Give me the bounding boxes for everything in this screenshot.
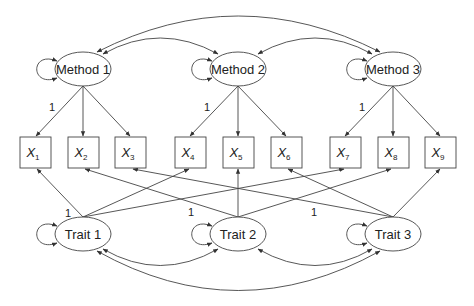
load-t1-x7 xyxy=(83,169,344,217)
var-trait3 xyxy=(347,224,367,245)
load-t3-x6 xyxy=(288,169,393,217)
load-m2-x4 xyxy=(190,86,238,136)
cov-trait2-trait3 xyxy=(258,249,372,266)
load-m2-x6 xyxy=(238,86,286,136)
load-t1-x1 xyxy=(37,169,83,217)
cov-method1-method2 xyxy=(103,38,218,54)
cov-trait1-trait3 xyxy=(97,251,380,291)
trait-2-node: Trait 2 xyxy=(210,217,266,251)
method-2-label: Method 2 xyxy=(211,62,265,77)
var-trait1 xyxy=(37,224,57,245)
fixed-loading-m2: 1 xyxy=(204,101,210,113)
var-method2 xyxy=(192,59,212,80)
fixed-loading-t1: 1 xyxy=(65,207,71,219)
load-t3-x9 xyxy=(393,169,440,217)
cov-method1-method3 xyxy=(97,16,380,52)
trait-3-node: Trait 3 xyxy=(365,217,421,251)
trait-1-label: Trait 1 xyxy=(65,227,101,242)
load-m1-x1 xyxy=(36,86,83,136)
method-1-label: Method 1 xyxy=(56,62,110,77)
fixed-loading-t3: 1 xyxy=(311,206,317,218)
trait-2-label: Trait 2 xyxy=(220,227,256,242)
fixed-loading-m1: 1 xyxy=(49,101,55,113)
load-m1-x3 xyxy=(83,86,130,136)
trait-3-label: Trait 3 xyxy=(375,227,411,242)
fixed-loading-m3: 1 xyxy=(359,101,365,113)
method-3-label: Method 3 xyxy=(366,62,420,77)
mtmm-path-diagram: Method 1 Method 2 Method 3 Trait 1 Trait… xyxy=(0,0,474,306)
var-method3 xyxy=(347,59,367,80)
load-m3-x7 xyxy=(345,86,393,136)
load-t3-x3 xyxy=(133,169,393,217)
var-trait2 xyxy=(192,224,212,245)
method-1-node: Method 1 xyxy=(55,52,111,86)
method-3-node: Method 3 xyxy=(365,52,421,86)
load-m3-x9 xyxy=(393,86,440,136)
trait-1-node: Trait 1 xyxy=(55,217,111,251)
fixed-loading-t2: 1 xyxy=(188,206,194,218)
method-2-node: Method 2 xyxy=(210,52,266,86)
var-method1 xyxy=(37,59,57,80)
